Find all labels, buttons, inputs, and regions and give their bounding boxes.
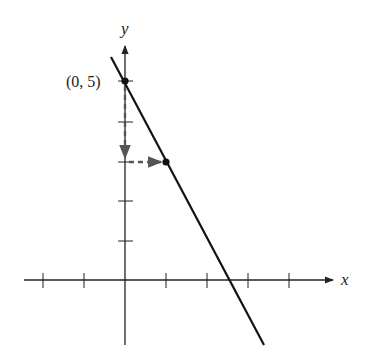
x-axis-label: x bbox=[340, 270, 349, 289]
graph: y x (0, 5) bbox=[0, 0, 367, 357]
intercept-label: (0, 5) bbox=[66, 73, 101, 91]
y-axis-label: y bbox=[119, 19, 129, 38]
graph-line bbox=[111, 57, 264, 345]
point-1-3 bbox=[162, 158, 169, 165]
point-intercept bbox=[121, 77, 128, 84]
